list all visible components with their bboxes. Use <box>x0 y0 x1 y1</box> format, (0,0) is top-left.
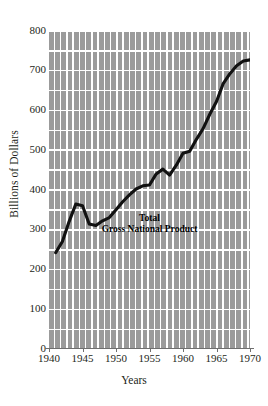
x-tick-1960: 1960 <box>172 352 194 364</box>
y-tick-600: 600 <box>14 104 46 115</box>
y-tick-200: 200 <box>14 263 46 274</box>
y-tick-100: 100 <box>14 303 46 314</box>
y-tick-300: 300 <box>14 223 46 234</box>
x-tickmark-1940 <box>49 348 50 352</box>
y-axis-tick-labels: 0100200300400500600700800 <box>14 0 46 406</box>
x-tick-1950: 1950 <box>105 352 127 364</box>
y-tick-700: 700 <box>14 64 46 75</box>
y-tick-500: 500 <box>14 144 46 155</box>
x-tick-1940: 1940 <box>38 352 60 364</box>
y-tick-800: 800 <box>14 25 46 36</box>
x-tickmark-1965 <box>217 348 218 352</box>
x-axis-tick-labels: 1940194519501955196019651970 <box>0 352 268 370</box>
x-tickmark-1945 <box>83 348 84 352</box>
plot-area <box>49 30 250 348</box>
gnp-line-series <box>49 30 250 348</box>
x-tick-1955: 1955 <box>139 352 161 364</box>
x-tickmark-1955 <box>150 348 151 352</box>
x-tick-1945: 1945 <box>72 352 94 364</box>
chart-figure: Billions of Dollars 01002003004005006007… <box>0 0 268 406</box>
y-tick-400: 400 <box>14 184 46 195</box>
x-tickmark-1960 <box>183 348 184 352</box>
x-tickmark-1950 <box>116 348 117 352</box>
gnp-line-path <box>56 60 250 253</box>
x-tick-1970: 1970 <box>239 352 261 364</box>
x-tickmark-1970 <box>250 348 251 352</box>
x-axis-title: Years <box>0 374 268 386</box>
x-tick-1965: 1965 <box>206 352 228 364</box>
